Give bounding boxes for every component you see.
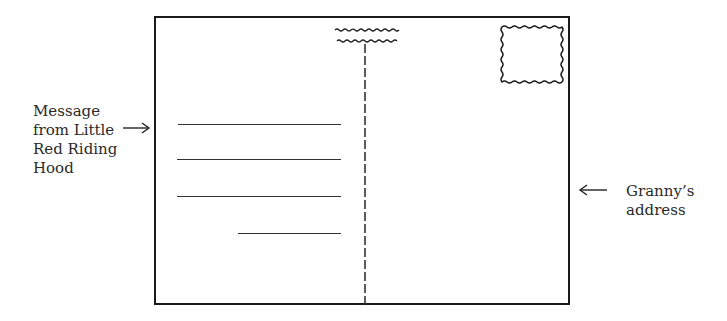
message-label-line-2: from Little bbox=[33, 121, 117, 140]
message-line-1 bbox=[178, 124, 341, 125]
wavy-line-top bbox=[335, 27, 399, 47]
granny-address-label-line-1: Granny’s bbox=[626, 182, 694, 201]
message-label: Message from Little Red Riding Hood bbox=[33, 102, 117, 178]
message-line-4 bbox=[238, 233, 341, 234]
right-arrow-icon bbox=[122, 122, 152, 134]
postcard bbox=[154, 16, 570, 305]
message-label-line-4: Hood bbox=[33, 159, 117, 178]
granny-address-label: Granny’s address bbox=[626, 182, 694, 220]
left-arrow-icon bbox=[578, 184, 608, 196]
message-line-3 bbox=[177, 196, 341, 197]
message-label-line-3: Red Riding bbox=[33, 140, 117, 159]
stamp-box bbox=[500, 25, 566, 83]
message-line-2 bbox=[177, 159, 341, 160]
granny-address-label-line-2: address bbox=[626, 201, 694, 220]
message-label-line-1: Message bbox=[33, 102, 117, 121]
dashed-vertical-divider bbox=[363, 44, 367, 306]
